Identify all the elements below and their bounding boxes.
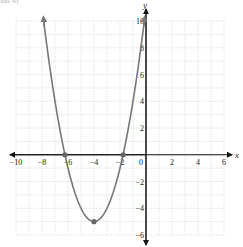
x-intercept-point — [121, 152, 126, 157]
vertex-point — [91, 219, 96, 224]
left-arrow-icon — [43, 17, 44, 26]
y-tick-label: −4 — [135, 204, 144, 213]
x-tick-label: 4 — [196, 158, 200, 167]
x-tick-label: −8 — [38, 158, 47, 167]
y-axis-label: y — [142, 0, 147, 10]
y-tick-label: 4 — [140, 97, 144, 106]
right-arrow-icon — [144, 17, 145, 26]
y-tick-label: 2 — [140, 124, 144, 133]
y-tick-label: −2 — [135, 178, 144, 187]
x-tick-label: 2 — [170, 158, 174, 167]
x-tick-label: 0 — [139, 158, 143, 167]
x-axis-label: x — [234, 150, 239, 160]
y-tick-label: 10 — [136, 17, 144, 26]
y-tick-label: 6 — [140, 71, 144, 80]
parabola-graph: −10−8−6−4−20246−6−4−2246810 xy — [0, 0, 243, 247]
x-tick-label: 6 — [222, 158, 226, 167]
x-tick-label: −10 — [10, 158, 23, 167]
x-tick-label: −4 — [90, 158, 99, 167]
x-intercept-point — [62, 152, 67, 157]
y-tick-label: −6 — [135, 231, 144, 240]
